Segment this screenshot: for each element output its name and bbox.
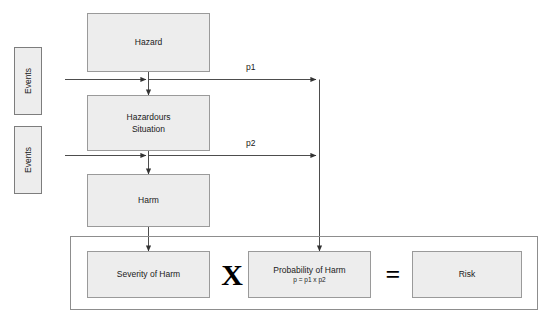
node-harm[interactable]: Harm (87, 174, 210, 227)
edge-label-p1: p1 (246, 62, 255, 72)
node-hazardous-situation-label-line1: Hazardours (127, 112, 171, 123)
events-input-1-label: Events (23, 68, 33, 94)
node-hazard[interactable]: Hazard (87, 13, 210, 72)
node-risk-label: Risk (459, 269, 476, 280)
node-probability-of-harm-formula: p = p1 x p2 (293, 276, 325, 284)
events-input-2[interactable]: Events (14, 126, 42, 194)
node-hazardous-situation-label-line2: Situation (132, 124, 165, 135)
node-severity-of-harm-label: Severity of Harm (117, 269, 180, 280)
node-risk[interactable]: Risk (412, 251, 522, 298)
node-probability-of-harm-label: Probability of Harm (273, 265, 345, 276)
node-hazard-label: Hazard (135, 37, 162, 48)
risk-diagram-canvas: Events Events Hazard Hazardours Situatio… (0, 0, 554, 322)
events-input-2-label: Events (23, 147, 33, 173)
node-harm-label: Harm (138, 195, 159, 206)
events-input-1[interactable]: Events (14, 47, 42, 115)
node-probability-of-harm[interactable]: Probability of Harm p = p1 x p2 (248, 251, 371, 298)
multiply-operator: X (215, 252, 249, 297)
edge-label-p2: p2 (246, 138, 255, 148)
node-hazardous-situation[interactable]: Hazardours Situation (87, 95, 210, 151)
node-severity-of-harm[interactable]: Severity of Harm (87, 251, 210, 298)
equals-operator: = (378, 253, 408, 296)
